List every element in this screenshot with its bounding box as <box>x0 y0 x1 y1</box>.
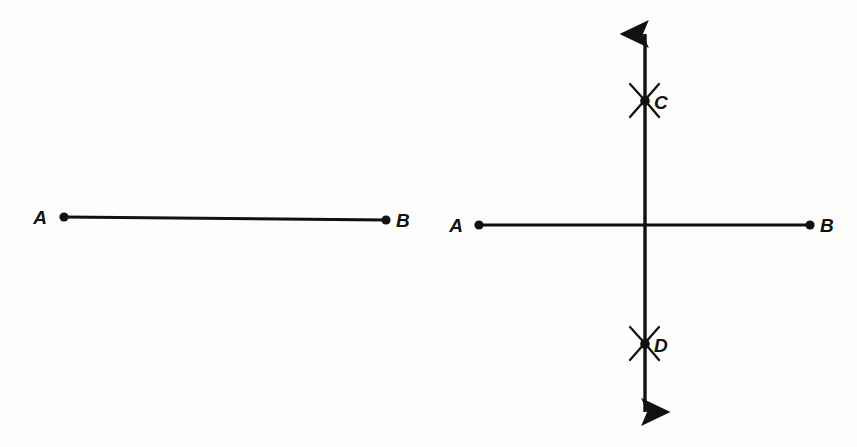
panel-left: A B <box>32 207 410 231</box>
point-label-d: D <box>654 335 668 356</box>
geometry-figure-canvas: A B A B C <box>0 0 857 447</box>
endpoint-dot-b-left <box>381 215 390 224</box>
point-dot-d <box>640 339 650 349</box>
point-label-c: C <box>654 92 668 113</box>
endpoint-dot-b-right <box>805 220 814 229</box>
point-label-b-right: B <box>820 215 834 236</box>
segment-ab-left <box>64 217 386 220</box>
point-label-a-left: A <box>32 207 47 228</box>
point-label-a-right: A <box>448 215 463 236</box>
endpoint-dot-a-right <box>474 220 483 229</box>
point-dot-c <box>640 96 650 106</box>
panel-right: A B C D <box>448 34 834 412</box>
endpoint-dot-a-left <box>59 212 68 221</box>
point-label-b-left: B <box>396 210 410 231</box>
construction-diagram: A B A B C <box>0 0 857 447</box>
